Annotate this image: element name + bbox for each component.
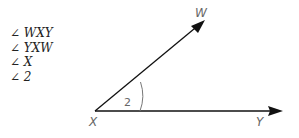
angle-diagram: 2 W X Y (0, 0, 299, 138)
point-w-label: W (195, 6, 208, 20)
ray-xw (95, 20, 205, 111)
point-y-label: Y (256, 115, 265, 129)
angle-arc (140, 82, 143, 111)
point-x-label: X (88, 115, 98, 129)
angle-number-label: 2 (124, 96, 131, 109)
